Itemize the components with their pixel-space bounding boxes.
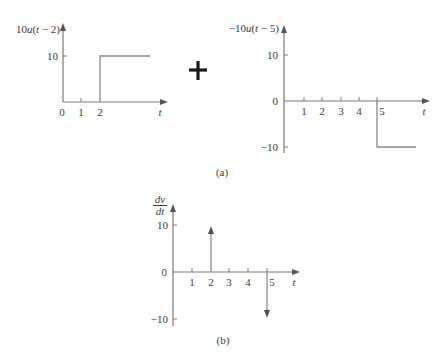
- plot-b-ylabel: dv dt: [153, 193, 167, 217]
- x-tick-label: 2: [319, 105, 325, 117]
- y-tick-label: 0: [273, 95, 279, 107]
- x-tick-label: 1: [189, 276, 195, 288]
- x-tick-label: 5: [379, 105, 385, 117]
- y-tick-label: −10: [261, 141, 279, 153]
- x-axis-label: t: [422, 105, 426, 117]
- y-tick-label: −10: [151, 313, 169, 325]
- y-axis-arrow-icon: [170, 204, 176, 212]
- y-tick-label: 0: [162, 266, 168, 278]
- x-tick-label: 2: [208, 276, 214, 288]
- x-tick-label: 1: [78, 106, 84, 118]
- x-tick-label: 5: [269, 276, 275, 288]
- caption-b: (b): [217, 334, 230, 347]
- impulse-down-arrow-icon: [264, 310, 270, 318]
- y-tick-label: 10: [47, 50, 59, 62]
- plot-a-left: 10u(t − 2) 10 0 1 2 t: [16, 23, 168, 118]
- x-axis-arrow-icon: [422, 98, 430, 104]
- x-tick-label: 4: [356, 105, 362, 117]
- x-tick-label: 0: [59, 106, 65, 118]
- y-tick-label: 10: [267, 49, 279, 61]
- y-axis-arrow-icon: [281, 25, 287, 33]
- x-axis-label: t: [158, 106, 162, 118]
- svg-text:dt: dt: [156, 205, 166, 217]
- impulse-up-arrow-icon: [208, 226, 214, 234]
- y-tick-label: 10: [157, 219, 169, 231]
- y-axis-arrow-icon: [60, 23, 66, 31]
- x-tick-label: 2: [97, 106, 103, 118]
- plus-operator-icon: [189, 61, 207, 80]
- plot-b: dv dt 10 0 −10 1 2 3 4 5 t: [151, 193, 300, 326]
- x-axis-label: t: [292, 276, 296, 288]
- x-tick-label: 1: [301, 105, 307, 117]
- caption-a: (a): [216, 166, 229, 179]
- x-tick-label: 3: [226, 276, 232, 288]
- x-tick-label: 4: [245, 276, 251, 288]
- x-tick-label: 3: [338, 105, 344, 117]
- plot-a-right-ylabel: −10u(t − 5): [229, 22, 280, 35]
- svg-text:dv: dv: [155, 193, 166, 205]
- plot-a-left-ylabel: 10u(t − 2): [16, 23, 60, 36]
- x-axis-arrow-icon: [160, 99, 168, 105]
- step-function-derivative-figure: 10u(t − 2) 10 0 1 2 t −10u(t − 5) 10 0 −…: [0, 0, 444, 357]
- x-axis-arrow-icon: [292, 269, 300, 275]
- plot-a-right: −10u(t − 5) 10 0 −10 1 2 3 4 5 t: [229, 22, 430, 153]
- step-signal-line: [100, 56, 150, 102]
